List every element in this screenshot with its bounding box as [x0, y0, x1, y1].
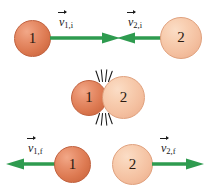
ball-2-before: 2 — [160, 17, 202, 59]
impact-marks-bottom — [95, 113, 115, 126]
velocity-subscript-1-before: 1,i — [64, 20, 73, 30]
velocity-arrow-1-after — [6, 158, 56, 170]
ball-2-before-label: 2 — [177, 30, 185, 46]
velocity-label-2-after: v2,f — [161, 142, 176, 156]
velocity-label-1-after: v1,f — [28, 142, 43, 156]
ball-1-before: 1 — [14, 20, 51, 57]
ball-1-during-label: 1 — [85, 90, 93, 106]
velocity-subscript-2-after: 2,f — [166, 146, 175, 156]
collision-diagram: 1 v1,i v2,i 2 1 2 — [0, 0, 209, 186]
ball-2-after: 2 — [112, 144, 153, 185]
velocity-subscript-2-before: 2,i — [133, 20, 142, 30]
velocity-symbol-1-after: v — [28, 142, 33, 154]
velocity-label-1-before: v1,i — [59, 16, 73, 30]
velocity-label-2-before: v2,i — [128, 16, 142, 30]
velocity-symbol-1-before: v — [59, 16, 64, 28]
ball-1-after: 1 — [54, 146, 91, 183]
velocity-arrow-1-before — [50, 32, 121, 44]
velocity-arrow-2-after — [152, 158, 204, 170]
velocity-symbol-2-after: v — [161, 142, 166, 154]
ball-1-before-label: 1 — [29, 31, 37, 47]
ball-2-during-label: 2 — [120, 90, 128, 106]
impact-marks-top — [95, 69, 115, 82]
ball-2-after-label: 2 — [129, 157, 137, 173]
velocity-symbol-2-before: v — [128, 16, 133, 28]
velocity-subscript-1-after: 1,f — [33, 146, 42, 156]
ball-1-after-label: 1 — [69, 157, 77, 173]
